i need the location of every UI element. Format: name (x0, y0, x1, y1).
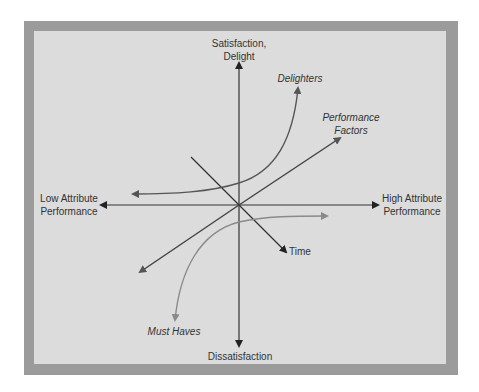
x-axis-right-label-line1: High Attribute (378, 192, 446, 205)
must-haves-label: Must Haves (146, 325, 202, 338)
must-haves-curve-right (239, 216, 327, 222)
time-label: Time (289, 245, 311, 258)
performance-factors-label-line2: Factors (320, 124, 382, 137)
delighters-label: Delighters (275, 72, 325, 85)
y-axis-top-label: Satisfaction, Delight (206, 37, 272, 63)
x-axis-left-label-line2: Performance (36, 205, 102, 218)
delighters-curve-up (239, 88, 298, 183)
performance-factors-line-up (239, 138, 340, 205)
y-axis-bottom-label: Dissatisfaction (200, 350, 280, 363)
performance-factors-line-down (140, 205, 239, 272)
y-axis-top-label-line1: Satisfaction, (206, 37, 272, 50)
must-haves-curve-down (175, 222, 239, 320)
x-axis-right-label-line2: Performance (378, 205, 446, 218)
x-axis-left-label: Low Attribute Performance (36, 192, 102, 218)
performance-factors-label-line1: Performance (320, 111, 382, 124)
y-axis-top-label-line2: Delight (206, 50, 272, 63)
x-axis-left-label-line1: Low Attribute (36, 192, 102, 205)
performance-factors-label: Performance Factors (320, 111, 382, 137)
x-axis-right-label: High Attribute Performance (378, 192, 446, 218)
